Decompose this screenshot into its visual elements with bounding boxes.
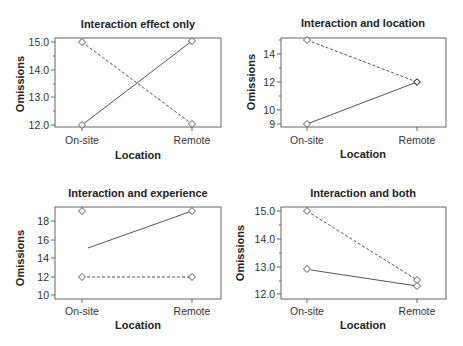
chart-panel-interaction-and-both: Interaction and both 15.0 14.0 13.0 12.0… bbox=[231, 173, 463, 346]
plot-area bbox=[281, 207, 446, 299]
x-tick-label: Remote bbox=[174, 305, 211, 317]
diamond-markers bbox=[304, 37, 421, 128]
dashed-series-line bbox=[307, 40, 417, 82]
dashed-series-line bbox=[307, 211, 417, 280]
y-axis-label: Omissions bbox=[245, 54, 257, 110]
chart-panel-interaction-and-experience: Interaction and experience 18 16 14 12 1… bbox=[0, 173, 231, 346]
y-tick-label: 10 bbox=[263, 104, 275, 116]
chart-2-svg: Interaction and location 14 12 10 9 On-s… bbox=[231, 0, 463, 173]
x-tick-label: Remote bbox=[399, 305, 436, 317]
x-tick-label: On-site bbox=[290, 305, 324, 317]
chart-title: Interaction and experience bbox=[68, 187, 207, 199]
y-tick-label: 12 bbox=[263, 76, 275, 88]
y-tick-label: 9 bbox=[269, 118, 275, 130]
solid-series-line bbox=[311, 270, 417, 286]
y-tick-label: 14.0 bbox=[255, 233, 276, 245]
x-tick-label: On-site bbox=[65, 134, 99, 146]
solid-series-line bbox=[88, 211, 192, 248]
y-tick-label: 18 bbox=[37, 215, 49, 227]
chart-4-svg: Interaction and both 15.0 14.0 13.0 12.0… bbox=[231, 173, 463, 346]
plot-area bbox=[55, 207, 221, 299]
x-axis-label: Location bbox=[340, 148, 386, 160]
x-axis-label: Location bbox=[340, 319, 386, 331]
x-tick-label: Remote bbox=[399, 134, 436, 146]
chart-title: Interaction effect only bbox=[81, 18, 196, 30]
y-axis bbox=[277, 40, 417, 131]
y-tick-label: 12.0 bbox=[29, 119, 50, 131]
y-axis-label: Omissions bbox=[14, 230, 26, 286]
y-axis bbox=[51, 221, 192, 303]
y-tick-label: 10 bbox=[37, 289, 49, 301]
x-axis-label: Location bbox=[115, 319, 161, 331]
solid-series-line bbox=[82, 41, 192, 125]
chart-title: Interaction and both bbox=[310, 187, 416, 199]
x-axis-label: Location bbox=[115, 149, 161, 161]
solid-series-line bbox=[307, 82, 417, 124]
y-tick-label: 14 bbox=[37, 252, 49, 264]
x-tick-label: On-site bbox=[65, 305, 99, 317]
x-tick-label: Remote bbox=[174, 134, 211, 146]
y-tick-label: 15.0 bbox=[29, 36, 50, 48]
y-tick-label: 13.0 bbox=[29, 91, 50, 103]
y-axis bbox=[51, 42, 192, 131]
diamond-markers bbox=[79, 208, 196, 281]
y-axis-label: Omissions bbox=[234, 225, 246, 281]
y-tick-label: 14 bbox=[263, 48, 275, 60]
y-tick-label: 12.0 bbox=[255, 288, 276, 300]
y-axis bbox=[277, 211, 417, 303]
chart-panel-interaction-and-location: Interaction and location 14 12 10 9 On-s… bbox=[231, 0, 463, 173]
chart-title: Interaction and location bbox=[301, 17, 425, 29]
chart-panel-interaction-effect-only: Interaction effect only 15.0 14.0 13.0 1… bbox=[0, 0, 231, 173]
y-axis-label: Omissions bbox=[14, 56, 26, 112]
y-tick-label: 13.0 bbox=[255, 261, 276, 273]
x-tick-label: On-site bbox=[290, 134, 324, 146]
plot-area bbox=[281, 38, 446, 127]
chart-3-svg: Interaction and experience 18 16 14 12 1… bbox=[0, 173, 231, 346]
y-tick-label: 14.0 bbox=[29, 64, 50, 76]
y-tick-label: 12 bbox=[37, 271, 49, 283]
y-tick-label: 15.0 bbox=[255, 205, 276, 217]
chart-1-svg: Interaction effect only 15.0 14.0 13.0 1… bbox=[0, 0, 231, 173]
y-tick-label: 16 bbox=[37, 234, 49, 246]
